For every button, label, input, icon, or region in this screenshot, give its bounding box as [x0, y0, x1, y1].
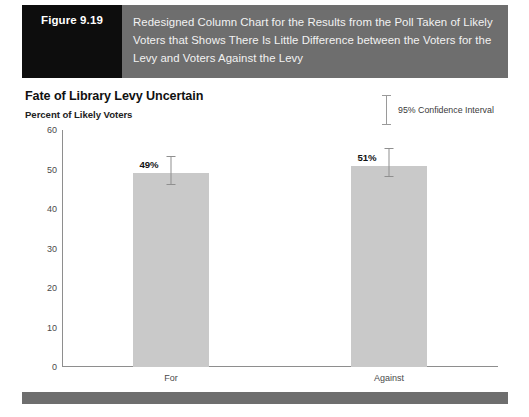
x-tick-label: For — [164, 373, 178, 383]
y-tick-label: 50 — [47, 165, 57, 175]
error-bar-against — [385, 148, 394, 178]
legend-label: 95% Confidence Interval — [398, 105, 494, 115]
bar-value-label: 49% — [139, 159, 158, 170]
error-bar-for — [167, 156, 176, 186]
y-tick-label: 10 — [47, 323, 57, 333]
plot-area: 0102030405060 49%51% ForAgainst — [62, 130, 498, 367]
x-axis-line — [62, 366, 498, 367]
chart-subtitle: Percent of Likely Voters — [25, 109, 132, 120]
chart-legend: 95% Confidence Interval — [382, 95, 494, 125]
figure-header: Figure 9.19 Redesigned Column Chart for … — [22, 5, 508, 78]
y-tick-label: 40 — [47, 204, 57, 214]
bar-value-label: 51% — [357, 151, 376, 162]
bar-for — [133, 173, 209, 367]
chart-panel: Fate of Library Levy Uncertain Percent o… — [22, 80, 508, 390]
y-axis-line — [62, 130, 63, 367]
x-tick-label: Against — [374, 373, 404, 383]
figure-number-label: Figure 9.19 — [41, 14, 103, 26]
y-tick-label: 60 — [47, 125, 57, 135]
figure-caption-text: Redesigned Column Chart for the Results … — [133, 16, 493, 64]
bar-against — [351, 166, 427, 367]
figure-caption-block: Redesigned Column Chart for the Results … — [122, 5, 508, 78]
figure-number-block: Figure 9.19 — [22, 5, 122, 78]
y-tick-label: 20 — [47, 283, 57, 293]
chart-title: Fate of Library Levy Uncertain — [25, 89, 203, 103]
error-bar-icon — [382, 95, 391, 125]
y-tick-label: 30 — [47, 244, 57, 254]
y-tick-label: 0 — [52, 362, 57, 372]
footer-bar — [22, 392, 508, 404]
